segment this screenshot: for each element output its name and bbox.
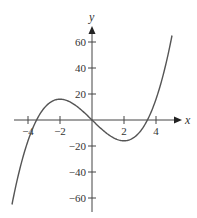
x-axis-label: x	[184, 113, 191, 127]
x-tick-label: 2	[121, 125, 127, 137]
x-axis-arrow-icon	[174, 117, 182, 124]
x-tick-label: −4	[22, 125, 34, 137]
y-axis-arrow-icon	[89, 26, 96, 34]
y-axis-label: y	[88, 10, 95, 24]
y-tick-label: −40	[69, 166, 87, 178]
y-tick-label: 60	[75, 36, 87, 48]
y-tick-label: −60	[69, 192, 87, 204]
y-tick-label: −20	[69, 140, 87, 152]
cubic-function-chart: x y −4−224 604020−20−40−60	[0, 0, 197, 218]
x-tick-label: 4	[153, 125, 159, 137]
x-tick-label: −2	[54, 125, 66, 137]
y-tick-label: 20	[75, 88, 87, 100]
y-tick-label: 40	[75, 62, 87, 74]
